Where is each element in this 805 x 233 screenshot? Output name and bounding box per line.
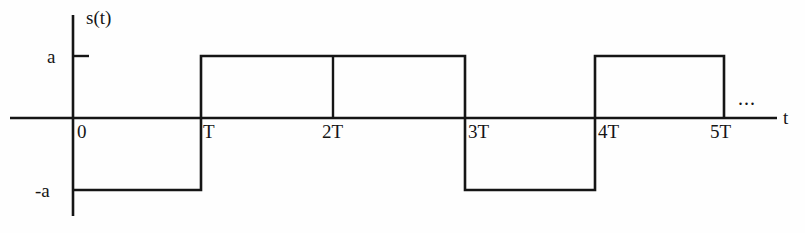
- x-tick-label-0: 0: [77, 122, 87, 141]
- x-tick-label-4t: 4T: [598, 122, 619, 141]
- waveform-plot: [0, 0, 805, 233]
- signal-waveform-figure: s(t) t a -a 0 T 2T 3T 4T 5T ...: [0, 0, 805, 233]
- x-tick-label-3t: 3T: [468, 122, 489, 141]
- continuation-ellipsis: ...: [738, 88, 756, 108]
- amplitude-positive-label: a: [47, 47, 55, 66]
- y-axis-label: s(t): [86, 8, 111, 27]
- waveform-trace: [73, 56, 724, 190]
- x-tick-label-1t: T: [203, 122, 215, 141]
- x-tick-label-2t: 2T: [322, 122, 343, 141]
- amplitude-negative-label: -a: [35, 181, 50, 200]
- x-axis-label: t: [783, 108, 788, 127]
- x-tick-label-5t: 5T: [710, 122, 731, 141]
